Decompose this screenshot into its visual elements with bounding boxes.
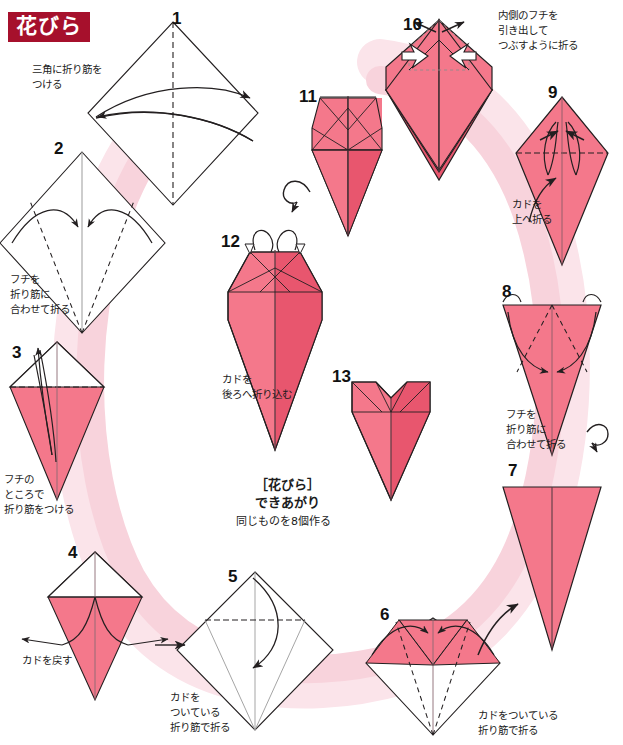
step-number-3: 3 [12, 344, 21, 361]
final-heading: ［花びら］ できあがり [255, 476, 320, 512]
step-11-figure [312, 96, 382, 236]
step-number-7: 7 [508, 462, 517, 479]
step-number-11: 11 [299, 88, 317, 105]
step-caption-6: カドをついている 折り筋で折る [478, 708, 558, 738]
step-caption-12: カドを 後ろへ折り込む [222, 372, 292, 402]
step-number-4: 4 [68, 544, 77, 561]
step-number-12: 12 [221, 233, 240, 250]
origami-instruction-page: 花びら 1 2 3 4 5 6 7 8 9 10 11 12 13 三角に折り筋… [0, 0, 623, 745]
step-number-5: 5 [228, 568, 237, 585]
turn-over-icon-2 [587, 425, 608, 452]
step-number-10: 10 [403, 16, 422, 33]
step-13-figure [352, 382, 430, 500]
step-caption-8: フチを 折り筋に 合わせて折る [506, 407, 566, 453]
step-caption-2: フチを 折り筋に 合わせて折る [10, 272, 70, 318]
page-title: 花びら [8, 12, 90, 42]
origami-diagram-canvas [0, 0, 623, 745]
step-caption-1: 三角に折り筋を つける [32, 62, 102, 92]
step-number-13: 13 [332, 368, 351, 385]
step-number-6: 6 [380, 606, 389, 623]
step-caption-10: 内側のフチを 引き出して つぶすように折る [498, 8, 578, 54]
step-caption-3: フチの ところで 折り筋をつける [4, 472, 74, 518]
step-caption-4: カドを戻す [22, 653, 72, 668]
step-number-9: 9 [548, 84, 557, 101]
step-number-2: 2 [54, 140, 63, 157]
turn-over-icon-1 [283, 181, 310, 212]
step-caption-5: カドを ついている 折り筋で折る [170, 690, 230, 736]
step-number-1: 1 [172, 10, 181, 27]
step-number-8: 8 [502, 283, 511, 300]
step-12-figure [228, 230, 322, 450]
final-subtext: 同じものを8個作る [236, 514, 331, 530]
step-caption-9: カドを 上へ折る [512, 197, 552, 227]
